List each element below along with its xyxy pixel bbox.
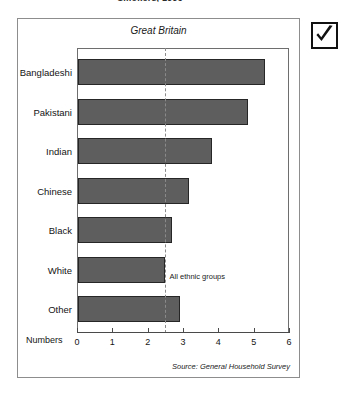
x-tick — [112, 328, 113, 333]
chart-title: Great Britain — [18, 25, 299, 36]
checked-checkbox[interactable] — [311, 22, 338, 49]
bar-white — [78, 257, 165, 283]
source-note: Source: General Household Survey — [172, 362, 290, 371]
bar-row: Chinese — [78, 178, 288, 204]
bar-black — [78, 217, 172, 243]
bar-row: Black — [78, 217, 288, 243]
reference-line-label: All ethnic groups — [170, 272, 225, 281]
x-axis: 0123456 — [77, 332, 289, 333]
x-tick-label: 1 — [110, 337, 115, 347]
reference-line-all-ethnic-groups — [165, 48, 166, 333]
bar-chinese — [78, 178, 189, 204]
x-tick — [254, 328, 255, 333]
category-label-other: Other — [48, 304, 72, 315]
x-tick — [148, 328, 149, 333]
bar-row: Pakistani — [78, 99, 288, 125]
category-label-black: Black — [49, 225, 72, 236]
check-icon — [313, 24, 336, 47]
category-label-bangladeshi: Bangladeshi — [20, 67, 72, 78]
bars-layer: BangladeshiPakistaniIndianChineseBlackWh… — [78, 49, 288, 332]
bar-row: Other — [78, 296, 288, 322]
x-tick — [218, 328, 219, 333]
category-label-chinese: Chinese — [37, 185, 72, 196]
x-tick — [289, 328, 290, 333]
x-tick-label: 0 — [74, 337, 79, 347]
x-tick — [183, 328, 184, 333]
document-headline: Smokers, 1996 — [0, 0, 300, 2]
bar-row: Indian — [78, 138, 288, 164]
bar-row: Bangladeshi — [78, 59, 288, 85]
x-axis-title: Numbers — [26, 335, 63, 345]
x-tick-label: 6 — [286, 337, 291, 347]
bar-pakistani — [78, 99, 248, 125]
category-label-white: White — [48, 264, 72, 275]
x-tick-label: 4 — [216, 337, 221, 347]
x-tick — [77, 328, 78, 333]
bar-bangladeshi — [78, 59, 265, 85]
category-label-pakistani: Pakistani — [33, 106, 72, 117]
x-tick-label: 2 — [145, 337, 150, 347]
plot-area: BangladeshiPakistaniIndianChineseBlackWh… — [77, 48, 289, 332]
x-tick-label: 3 — [180, 337, 185, 347]
bar-indian — [78, 138, 212, 164]
x-tick-label: 5 — [251, 337, 256, 347]
chart-figure: Great Britain BangladeshiPakistaniIndian… — [17, 18, 300, 378]
category-label-indian: Indian — [46, 146, 72, 157]
